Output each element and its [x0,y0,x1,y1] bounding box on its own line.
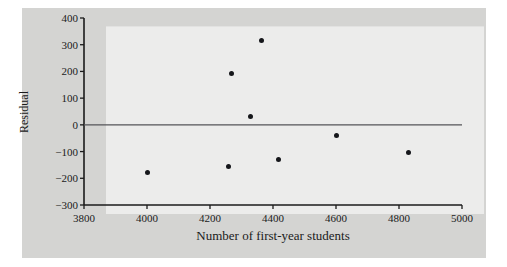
x-tick-label: 4200 [199,213,221,224]
x-tick-label: 4800 [388,213,410,224]
y-tick-label: 100 [40,93,78,104]
x-axis-title: Number of first-year students [196,228,349,244]
y-tick-label: −200 [40,173,78,184]
y-tick-label: 200 [40,66,78,77]
data-point [276,157,281,162]
residual-plot-figure: 4003002001000−100−200−300 38004000420044… [0,0,507,267]
y-tick-label: 0 [40,119,78,130]
axis-lines [84,18,462,205]
x-tick-label: 4000 [136,213,158,224]
tick-marks [80,18,462,209]
x-tick-label: 3800 [73,213,95,224]
x-tick-label: 4600 [325,213,347,224]
y-tick-label: −300 [40,200,78,211]
y-axis-title: Residual [17,91,32,133]
data-point [229,71,234,76]
y-tick-label: −100 [40,146,78,157]
y-tick-label: 300 [40,39,78,50]
y-tick-label: 400 [40,13,78,24]
data-point [334,133,339,138]
x-tick-label: 5000 [451,213,473,224]
x-tick-label: 4400 [262,213,284,224]
